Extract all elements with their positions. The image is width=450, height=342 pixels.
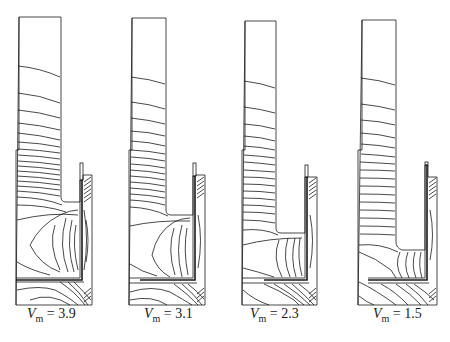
- panel-label-2: Vm = 3.1: [144, 306, 193, 322]
- label-value: 2.3: [281, 306, 299, 321]
- label-subscript: m: [36, 313, 44, 324]
- label-variable: V: [250, 306, 259, 321]
- contour-panel-1: Vm = 3.9: [0, 0, 112, 342]
- panel-label-1: Vm = 3.9: [27, 306, 76, 322]
- label-variable: V: [144, 306, 153, 321]
- contour-panel-2: Vm = 3.1: [112, 0, 224, 342]
- contour-plot-1: [0, 0, 112, 342]
- label-subscript: m: [259, 313, 267, 324]
- panel-label-3: Vm = 2.3: [250, 306, 299, 322]
- label-value: 3.1: [175, 306, 193, 321]
- label-equals: =: [270, 306, 278, 321]
- contour-plot-2: [112, 0, 224, 342]
- contour-panel-4: Vm = 1.5: [336, 0, 450, 342]
- label-subscript: m: [153, 313, 161, 324]
- contour-panel-3: Vm = 2.3: [224, 0, 336, 342]
- label-equals: =: [393, 306, 401, 321]
- label-variable: V: [27, 306, 36, 321]
- panel-label-4: Vm = 1.5: [373, 306, 422, 322]
- label-equals: =: [164, 306, 172, 321]
- contour-plot-4: [336, 0, 450, 342]
- label-subscript: m: [382, 313, 390, 324]
- label-value: 1.5: [404, 306, 422, 321]
- label-variable: V: [373, 306, 382, 321]
- label-equals: =: [47, 306, 55, 321]
- contour-plot-3: [224, 0, 336, 342]
- figure: Vm = 3.9: [0, 0, 450, 342]
- label-value: 3.9: [58, 306, 76, 321]
